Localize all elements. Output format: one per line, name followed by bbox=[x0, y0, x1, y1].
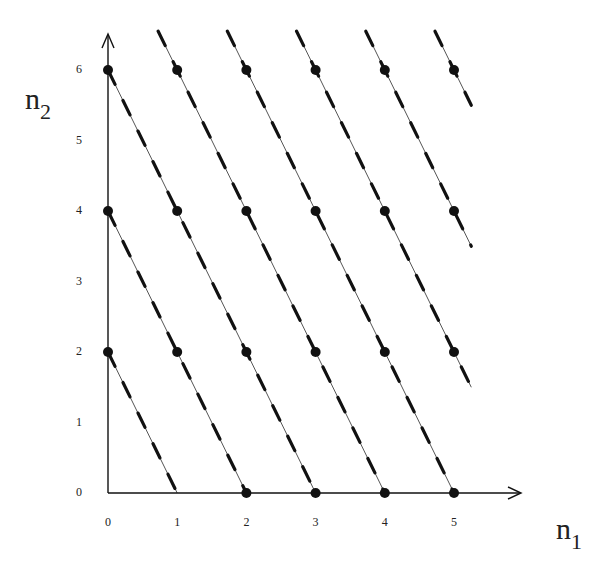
y-tick-label: 5 bbox=[76, 133, 82, 148]
lattice-point bbox=[172, 347, 182, 357]
lattice-point bbox=[380, 347, 390, 357]
lattice-point bbox=[449, 206, 459, 216]
lattice-point bbox=[449, 65, 459, 75]
lattice-point bbox=[311, 206, 321, 216]
lattice-point bbox=[241, 347, 251, 357]
y-tick-label: 2 bbox=[76, 344, 82, 359]
lattice-point bbox=[380, 206, 390, 216]
lattice-point bbox=[103, 65, 113, 75]
x-axis-label: n1 bbox=[556, 512, 582, 555]
lattice-point bbox=[241, 488, 251, 498]
lattice-point bbox=[311, 347, 321, 357]
x-tick-label: 4 bbox=[382, 515, 388, 530]
x-tick-label: 5 bbox=[451, 515, 457, 530]
x-tick-label: 3 bbox=[313, 515, 319, 530]
lattice-point bbox=[172, 206, 182, 216]
y-tick-label: 1 bbox=[76, 415, 82, 430]
x-tick-label: 2 bbox=[243, 515, 249, 530]
lattice-point bbox=[172, 65, 182, 75]
lattice-point bbox=[380, 488, 390, 498]
y-axis-label: n2 bbox=[25, 82, 51, 125]
lattice-point bbox=[103, 347, 113, 357]
y-tick-label: 0 bbox=[76, 485, 82, 500]
x-tick-label: 0 bbox=[105, 515, 111, 530]
lattice-point bbox=[311, 488, 321, 498]
lattice-point bbox=[449, 488, 459, 498]
lattice-point bbox=[449, 347, 459, 357]
y-tick-label: 3 bbox=[76, 274, 82, 289]
lattice-diagram bbox=[0, 0, 609, 577]
lattice-point bbox=[103, 206, 113, 216]
y-tick-label: 6 bbox=[76, 62, 82, 77]
lattice-point bbox=[311, 65, 321, 75]
x-tick-label: 1 bbox=[174, 515, 180, 530]
lattice-point bbox=[380, 65, 390, 75]
y-tick-label: 4 bbox=[76, 203, 82, 218]
lattice-point bbox=[241, 65, 251, 75]
lattice-point bbox=[241, 206, 251, 216]
